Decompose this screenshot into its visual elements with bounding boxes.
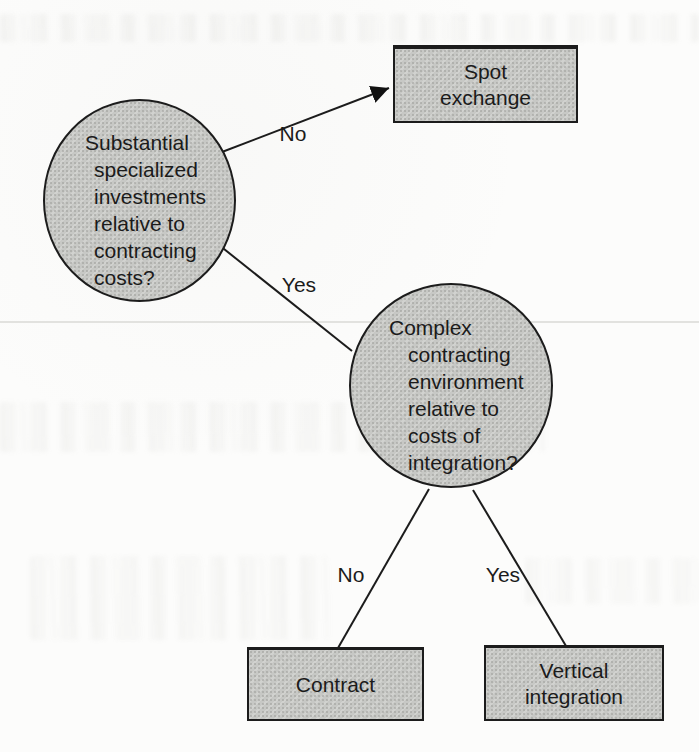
edge-label-yes: Yes xyxy=(273,273,325,297)
decision-node-contracting-environment: Complex contracting environment relative… xyxy=(349,283,553,488)
decision-node-text: Complex contracting environment relative… xyxy=(351,285,551,476)
edge-label-yes: Yes xyxy=(477,563,529,587)
outcome-node-text: Contract xyxy=(296,672,375,698)
edge-label-no: No xyxy=(271,122,315,146)
edge-yes-to-decision2 xyxy=(219,245,352,351)
edge-label-no: No xyxy=(329,563,373,587)
outcome-node-contract: Contract xyxy=(247,647,424,721)
decision-node-specialized-investments: Substantial specialized investments rela… xyxy=(43,99,236,302)
outcome-node-vertical-integration: Vertical integration xyxy=(484,645,664,721)
decision-node-text: Substantial specialized investments rela… xyxy=(45,101,234,291)
outcome-node-spot-exchange: Spot exchange xyxy=(393,45,578,123)
scanned-page: Substantial specialized investments rela… xyxy=(0,0,699,752)
outcome-node-text: Vertical integration xyxy=(525,658,623,710)
outcome-node-text: Spot exchange xyxy=(440,59,531,111)
